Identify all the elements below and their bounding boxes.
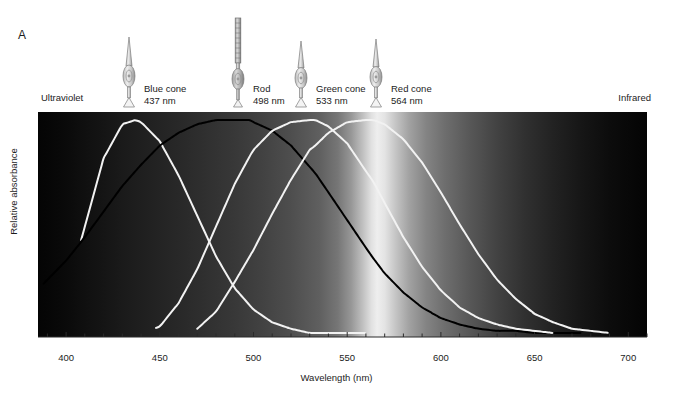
receptor-green-cone-label: Green cone 533 nm: [316, 83, 366, 106]
curve-green-cone: [156, 120, 552, 333]
y-axis-title: Relative absorbance: [8, 117, 19, 267]
plot-area: [38, 112, 647, 337]
rod-cell-icon: [227, 16, 249, 108]
x-tick-label: 600: [433, 352, 449, 363]
receptor-blue-cone-label: Blue cone 437 nm: [144, 83, 186, 106]
x-axis: [30, 332, 655, 348]
figure-panel-a: A Ultraviolet Infrared Blue cone: [0, 0, 673, 397]
cone-cell-icon: [290, 40, 312, 108]
receptor-peak: 564 nm: [391, 95, 432, 107]
x-tick-label: 400: [58, 352, 74, 363]
x-tick-label: 650: [527, 352, 543, 363]
curve-rod: [44, 120, 581, 333]
receptor-icon-row: Blue cone 437 nm: [0, 0, 673, 108]
cone-cell-icon: [365, 38, 387, 108]
x-axis-title: Wavelength (nm): [0, 372, 673, 383]
receptor-peak: 533 nm: [316, 95, 366, 107]
x-tick-label: 700: [620, 352, 636, 363]
receptor-rod-label: Rod 498 nm: [253, 83, 285, 106]
cone-cell-icon: [118, 36, 140, 108]
receptor-name: Green cone: [316, 83, 366, 95]
receptor-name: Blue cone: [144, 83, 186, 95]
receptor-name: Red cone: [391, 83, 432, 95]
x-tick-label: 500: [246, 352, 262, 363]
absorbance-curves: [38, 112, 647, 337]
receptor-red-cone-label: Red cone 564 nm: [391, 83, 432, 106]
x-tick-label: 550: [339, 352, 355, 363]
x-tick-label: 450: [152, 352, 168, 363]
receptor-peak: 498 nm: [253, 95, 285, 107]
receptor-peak: 437 nm: [144, 95, 186, 107]
curve-red-cone: [197, 120, 607, 333]
receptor-name: Rod: [253, 83, 285, 95]
